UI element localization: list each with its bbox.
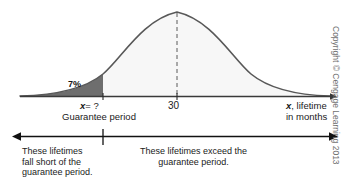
copyright-notice: Copyright © Cengage Learning 2013: [331, 26, 341, 165]
caption-exceed-line1: These lifetimes exceed the: [140, 146, 247, 156]
caption-fall-short-line1: These lifetimes: [22, 146, 83, 156]
mean-tick-label: 30: [168, 100, 179, 112]
distribution-body-fill: [20, 12, 330, 96]
shaded-tail-region: [20, 74, 103, 96]
guarantee-period-label: Guarantee period: [62, 111, 136, 122]
x-axis-title-rest: , lifetime: [291, 100, 326, 111]
caption-fall-short-line3: guarantee period.: [22, 167, 93, 177]
caption-exceed-line2: guarantee period.: [158, 157, 229, 167]
caption-exceed: These lifetimes exceed theguarantee peri…: [140, 146, 247, 167]
x-axis-title-line2: in months: [286, 111, 327, 122]
x-axis-title: x, lifetimein months: [286, 100, 327, 122]
caption-fall-short-line2: fall short of the: [22, 157, 81, 167]
caption-fall-short: These lifetimesfall short of theguarante…: [22, 146, 93, 178]
guarantee-tick-equals: = ?: [85, 100, 98, 111]
shaded-area-percent-label: 7%: [68, 79, 81, 90]
guarantee-tick-label: x= ?: [80, 100, 99, 111]
range-arrow-left-head-icon: [12, 132, 21, 141]
